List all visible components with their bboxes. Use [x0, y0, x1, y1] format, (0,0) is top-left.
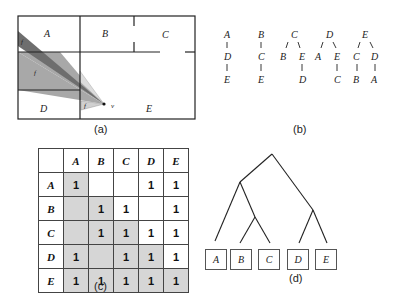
tree-c-node: D — [298, 74, 307, 85]
row-header: E — [39, 269, 64, 293]
cell: 1 — [114, 197, 139, 221]
cell — [64, 221, 89, 245]
room-label-d: D — [39, 103, 48, 114]
dendrogram-edges — [215, 154, 327, 243]
edge — [286, 42, 288, 48]
cell: 1 — [139, 173, 164, 197]
cell — [64, 197, 89, 221]
tree-c-node: E — [298, 51, 305, 62]
tree-a-root: A — [223, 29, 231, 40]
room-label-a: A — [43, 28, 51, 39]
caption-b: (b) — [293, 123, 306, 135]
tree-d-node: E — [333, 51, 340, 62]
row-header: A — [39, 173, 64, 197]
adjacency-matrix: A B C D E A 1 1 1 B 1 1 1 C 1 1 1 1 D 1 … — [38, 148, 189, 293]
matrix-row: B 1 1 1 — [39, 197, 189, 221]
panel-b-trees: A D E B C E C B E D D A E C E C D B A — [210, 20, 390, 130]
edge — [298, 42, 300, 48]
leaf-d: D — [287, 249, 309, 270]
edge — [370, 42, 373, 48]
cell: 1 — [114, 269, 139, 293]
row-header: C — [39, 221, 64, 245]
panel-a-floor-plan: A B C D E v f f f — [0, 0, 200, 140]
col-header: E — [164, 149, 189, 173]
col-header: A — [64, 149, 89, 173]
col-header: B — [89, 149, 114, 173]
matrix-row: C 1 1 1 1 — [39, 221, 189, 245]
matrix-header-row: A B C D E — [39, 149, 189, 173]
cell: 1 — [164, 197, 189, 221]
cell: 1 — [114, 221, 139, 245]
cell: 1 — [89, 221, 114, 245]
tree-d-root: D — [325, 29, 334, 40]
cell: 1 — [89, 197, 114, 221]
cell: 1 — [139, 245, 164, 269]
caption-d: (d) — [289, 272, 302, 284]
trees-svg: A D E B C E C B E D D A E C E C D B A — [210, 20, 390, 130]
tree-e-node: B — [353, 74, 359, 85]
leaf-e: E — [315, 249, 337, 270]
tree-d-node: C — [334, 74, 341, 85]
viewpoint-label: v — [111, 102, 115, 110]
edge — [321, 42, 323, 48]
cell — [114, 173, 139, 197]
cell — [89, 173, 114, 197]
room-label-b: B — [102, 28, 108, 39]
cell: 1 — [114, 245, 139, 269]
row-header: B — [39, 197, 64, 221]
tree-a-node: D — [223, 51, 232, 62]
cell: 1 — [64, 245, 89, 269]
cell — [139, 197, 164, 221]
tree-d-node: A — [314, 51, 322, 62]
cell: 1 — [164, 245, 189, 269]
matrix-row: A 1 1 1 — [39, 173, 189, 197]
matrix-corner — [39, 149, 64, 173]
leaf-a: A — [205, 249, 227, 270]
leaf-b: B — [230, 249, 252, 270]
room-label-e: E — [145, 103, 152, 114]
tree-e-root: E — [361, 29, 368, 40]
cell: 1 — [164, 221, 189, 245]
cell — [89, 245, 114, 269]
viewpoint-dot — [102, 102, 105, 105]
tree-e-node: A — [370, 74, 378, 85]
tree-c-root: C — [291, 29, 298, 40]
edge — [358, 42, 360, 48]
tree-e-node: C — [353, 51, 360, 62]
cell: 1 — [164, 269, 189, 293]
caption-c: (c) — [94, 280, 107, 292]
cell: 1 — [139, 269, 164, 293]
caption-a: (a) — [94, 123, 107, 135]
dendrogram-svg — [200, 140, 397, 293]
tree-e-node: D — [370, 51, 379, 62]
cell: 1 — [64, 173, 89, 197]
leaf-c: C — [258, 249, 280, 270]
col-header: C — [114, 149, 139, 173]
tree-b-root: B — [258, 29, 264, 40]
cell: 1 — [139, 221, 164, 245]
tree-c-node: B — [280, 51, 286, 62]
room-label-c: C — [162, 29, 169, 40]
matrix-row: E 1 1 1 1 1 — [39, 269, 189, 293]
cell: 1 — [164, 173, 189, 197]
tree-b-node: C — [258, 51, 265, 62]
edge — [333, 42, 336, 48]
floor-plan-svg: A B C D E v f f f — [0, 0, 200, 140]
panel-d-dendrogram — [200, 140, 397, 293]
col-header: D — [139, 149, 164, 173]
tree-a-node: E — [223, 74, 230, 85]
tree-b-node: E — [257, 74, 264, 85]
row-header: D — [39, 245, 64, 269]
cell: 1 — [64, 269, 89, 293]
matrix-row: D 1 1 1 1 — [39, 245, 189, 269]
